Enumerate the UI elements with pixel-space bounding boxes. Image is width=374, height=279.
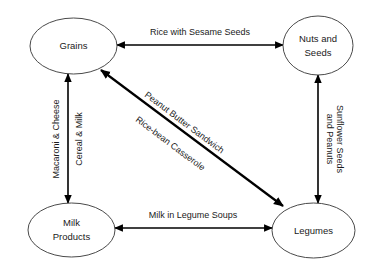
edge-label-milk-in-legume-soups: Milk in Legume Soups [149, 210, 238, 220]
edge-label-cereal-and-milk: Cereal & Milk [74, 112, 84, 166]
node-label-nuts-and-seeds-line1: Nuts and [299, 33, 337, 44]
edge-grains-milk-products: Macaroni & Cheese Cereal & Milk [51, 74, 84, 203]
edge-grains-nuts-and-seeds: Rice with Sesame Seeds [117, 27, 283, 45]
node-grains[interactable]: Grains [30, 18, 117, 74]
node-milk-products[interactable]: Milk Products [28, 203, 115, 257]
node-legumes[interactable]: Legumes [272, 203, 355, 258]
edge-milk-products-legumes: Milk in Legume Soups [115, 210, 272, 228]
node-label-milk-products-line1: Milk [63, 217, 80, 228]
food-combination-diagram: Rice with Sesame Seeds Milk in Legume So… [0, 0, 374, 279]
node-ellipse-nuts-and-seeds[interactable] [283, 16, 353, 75]
edge-label-macaroni-and-cheese: Macaroni & Cheese [51, 99, 61, 178]
edge-label-sunflower-seeds: Sunflower Seeds [335, 105, 345, 174]
food-combination-diagram-container: Rice with Sesame Seeds Milk in Legume So… [0, 0, 374, 279]
node-label-milk-products-line2: Products [53, 231, 91, 242]
edge-grains-legumes: Peanut Butter Sandwich Rice-bean Cassero… [101, 70, 283, 206]
edge-nuts-and-seeds-legumes: Sunflower Seeds and Peanuts [318, 75, 345, 203]
edge-line-grains-legumes [101, 70, 283, 206]
edge-label-rice-with-sesame-seeds: Rice with Sesame Seeds [150, 27, 251, 37]
node-nuts-and-seeds[interactable]: Nuts and Seeds [283, 16, 353, 75]
node-label-legumes: Legumes [294, 225, 333, 236]
node-label-grains: Grains [60, 40, 88, 51]
edge-label-peanut-butter-sandwich: Peanut Butter Sandwich [143, 90, 226, 156]
edge-label-and-peanuts: and Peanuts [325, 114, 335, 165]
node-label-nuts-and-seeds-line2: Seeds [305, 47, 332, 58]
